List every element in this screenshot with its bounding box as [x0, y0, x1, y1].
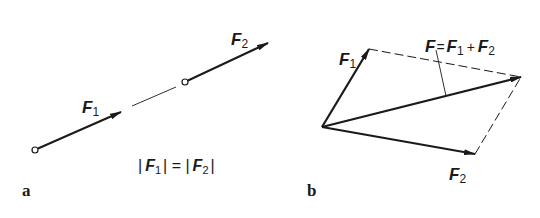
vector-diagram: F1 F2 |F1| = |F2| a F1 F2 F=F1+F2 b: [0, 0, 540, 218]
force-f1-arrow: [38, 112, 121, 149]
force-f2-arrow: [322, 127, 475, 154]
label-f1: F1: [82, 98, 99, 119]
resultant-equation: F=F1+F2: [425, 37, 495, 58]
dashed-parallel-2: [475, 77, 521, 154]
resultant-leader-line: [436, 50, 446, 96]
application-point-1: [32, 147, 38, 153]
label-f2: F2: [231, 30, 248, 51]
magnitude-equation: |F1| = |F2|: [138, 157, 215, 176]
panel-label-b: b: [307, 181, 316, 200]
panel-label-a: a: [22, 181, 31, 200]
panel-a: F1 F2 |F1| = |F2| a: [22, 30, 268, 200]
dashed-parallel-1: [369, 49, 521, 77]
panel-b: F1 F2 F=F1+F2 b: [307, 37, 521, 200]
force-f2-arrow: [188, 43, 268, 81]
resultant-force-arrow: [322, 77, 521, 127]
label-f1: F1: [339, 50, 356, 71]
application-point-2: [182, 79, 188, 85]
line-of-action: [132, 87, 176, 106]
label-f2: F2: [449, 165, 466, 186]
